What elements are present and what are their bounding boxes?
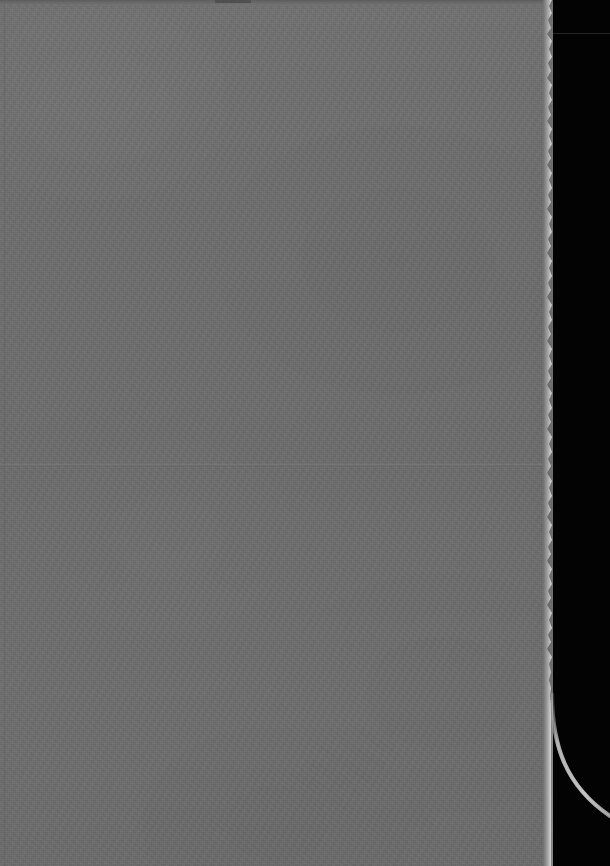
scan-viewport	[0, 0, 610, 866]
page-lower-edge-highlight	[547, 700, 553, 866]
page-top-edge	[0, 0, 553, 4]
paper-grain-texture	[0, 0, 553, 866]
page-top-edge-notch	[215, 0, 251, 3]
page-horizontal-crease-shadow	[0, 465, 553, 467]
paper-mottle-texture	[0, 0, 553, 866]
backdrop-seam-line	[552, 33, 610, 34]
page-left-fold-line	[4, 0, 5, 866]
paper-sheet	[0, 0, 553, 866]
